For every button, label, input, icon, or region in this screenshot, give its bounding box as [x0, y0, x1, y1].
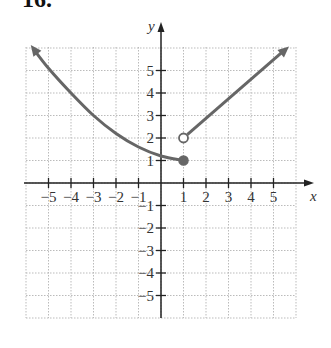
y-tick-label: −2	[138, 220, 154, 236]
y-tick-label: −5	[138, 288, 154, 304]
y-tick-label: 2	[147, 130, 155, 146]
x-tick-label: 3	[225, 189, 233, 205]
closed-point-icon	[179, 156, 188, 165]
curves	[31, 45, 289, 165]
x-tick-label: 1	[180, 189, 188, 205]
x-tick-label: −5	[41, 189, 57, 205]
y-tick-label: 1	[147, 153, 155, 169]
x-tick-label: −2	[108, 189, 124, 205]
x-tick-label: −4	[63, 189, 79, 205]
y-tick-label: 5	[147, 63, 155, 79]
x-axis-arrow-icon	[304, 180, 314, 187]
right-line	[187, 52, 282, 135]
x-tick-label: −3	[86, 189, 102, 205]
y-axis-label: y	[146, 18, 155, 34]
x-tick-label: 5	[270, 189, 278, 205]
y-axis-arrow-icon	[158, 22, 165, 32]
y-tick-label: 4	[147, 85, 155, 101]
graph: xy −5−4−3−2−112345−5−4−3−2−112345	[0, 0, 331, 348]
y-tick-label: −1	[138, 198, 154, 214]
x-tick-label: 4	[247, 189, 255, 205]
y-tick-label: 3	[147, 108, 155, 124]
x-tick-label: 2	[202, 189, 210, 205]
y-tick-label: −3	[138, 243, 154, 259]
x-axis-label: x	[309, 188, 317, 204]
y-tick-label: −4	[138, 265, 154, 281]
open-point-icon	[179, 134, 188, 143]
